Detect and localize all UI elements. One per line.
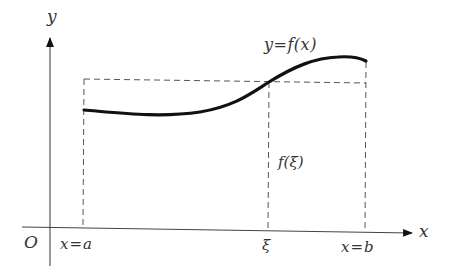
mean-value-level-line bbox=[84, 79, 366, 83]
vertical-line-b bbox=[365, 62, 366, 232]
x-axis-label: x bbox=[419, 221, 429, 241]
curve-label: y=f(x) bbox=[263, 35, 317, 54]
function-curve bbox=[84, 57, 366, 115]
mean-value-diagram: y y=f(x) f(ξ) O x=a ξ x=b x bbox=[0, 0, 462, 272]
x-axis bbox=[22, 227, 412, 233]
origin-label: O bbox=[24, 232, 38, 252]
vertical-line-xi bbox=[268, 82, 269, 231]
tick-label-a: x=a bbox=[60, 235, 93, 253]
vertical-line-a bbox=[83, 79, 84, 228]
f-xi-label: f(ξ) bbox=[277, 153, 304, 171]
tick-label-xi: ξ bbox=[262, 236, 271, 254]
tick-label-b: x=b bbox=[341, 238, 375, 256]
y-axis-label: y bbox=[46, 6, 57, 26]
